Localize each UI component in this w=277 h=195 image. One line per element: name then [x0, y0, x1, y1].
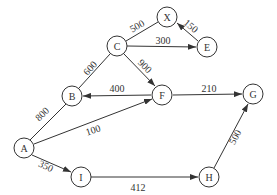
weight-c-e: 300 [156, 35, 171, 46]
svg-text:F: F [159, 90, 165, 101]
weight-a-i: 350 [37, 158, 55, 174]
node-f: F [152, 85, 172, 105]
svg-text:G: G [249, 89, 256, 100]
svg-text:I: I [79, 172, 82, 183]
edge-c-e [127, 46, 196, 47]
node-b: B [62, 86, 82, 106]
svg-text:E: E [204, 42, 210, 53]
node-x: X [157, 7, 177, 27]
node-g: G [243, 84, 263, 104]
weight-a-f: 100 [84, 122, 102, 137]
node-e: E [197, 37, 217, 57]
node-a: A [14, 138, 34, 158]
weight-b-c: 600 [81, 59, 99, 78]
svg-text:A: A [20, 143, 28, 154]
graph-diagram: 500 150 300 600 900 400 210 800 100 350 … [0, 0, 277, 195]
edge-a-f [34, 99, 152, 144]
edge-f-b [83, 95, 151, 96]
weight-c-x: 500 [128, 17, 146, 34]
svg-text:X: X [163, 12, 171, 23]
weight-h-g: 500 [227, 128, 244, 146]
svg-text:B: B [69, 91, 76, 102]
weight-c-f: 900 [136, 57, 154, 75]
node-h: H [199, 167, 219, 187]
weight-i-h: 412 [131, 182, 146, 193]
svg-text:C: C [114, 41, 121, 52]
node-c: C [107, 36, 127, 56]
edge-f-g [173, 94, 242, 95]
weight-e-x: 150 [182, 17, 201, 35]
node-i: I [71, 167, 91, 187]
svg-text:H: H [205, 172, 212, 183]
weight-f-b: 400 [110, 83, 125, 94]
weight-f-g: 210 [202, 83, 217, 94]
weight-a-b: 800 [33, 105, 51, 123]
